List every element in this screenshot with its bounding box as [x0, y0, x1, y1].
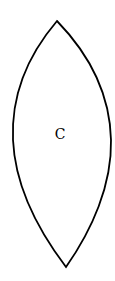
lens-diagram: C [0, 0, 115, 281]
region-label-c: C [55, 126, 66, 142]
lens-shape-outline [13, 21, 111, 267]
